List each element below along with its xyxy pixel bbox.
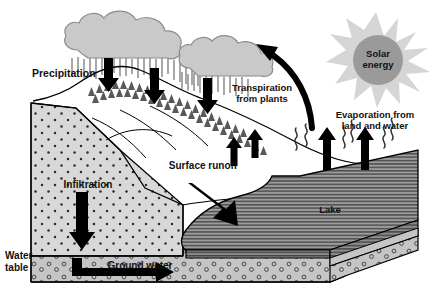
evaporation-label-line1: Evaporation from [336, 109, 415, 120]
transpiration-label-line2: from plants [236, 93, 288, 104]
ground-water-label: Ground water [107, 260, 172, 271]
surface-runoff-label: Surface runoff [169, 160, 238, 171]
water-cycle-diagram: Solar energy [0, 0, 441, 300]
precipitation-label: Precipitation [32, 67, 96, 79]
solar-energy-label-line1: Solar [366, 48, 390, 59]
lake-label: Lake [319, 204, 341, 215]
evaporation-label-line2: land and water [342, 120, 409, 131]
solar-energy-label-line2: energy [362, 59, 394, 70]
water-table-label-line2: table [5, 262, 29, 273]
water-cycle-illustration: Solar energy [0, 0, 441, 300]
water-table-label-line1: Water [5, 250, 33, 261]
infiltration-label: Infiltration [64, 179, 113, 190]
transpiration-label-line1: Transpiration [232, 82, 292, 93]
lake-front-face [186, 250, 330, 258]
